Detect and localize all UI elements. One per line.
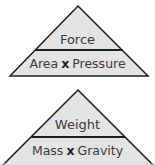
area-times-pressure-label: AreaxPressure [0,56,155,71]
mass-times-gravity-label: MassxGravity [0,143,155,158]
multiply-icon: x [66,143,74,158]
weight-label: Weight [0,117,155,132]
gravity-text: Gravity [77,143,123,158]
force-triangle: Force AreaxPressure [0,0,155,82]
multiply-icon: x [61,56,69,71]
force-label: Force [0,32,155,47]
area-text: Area [29,56,58,71]
mass-text: Mass [32,143,63,158]
weight-triangle: Weight MassxGravity [0,82,155,165]
pressure-text: Pressure [72,56,125,71]
